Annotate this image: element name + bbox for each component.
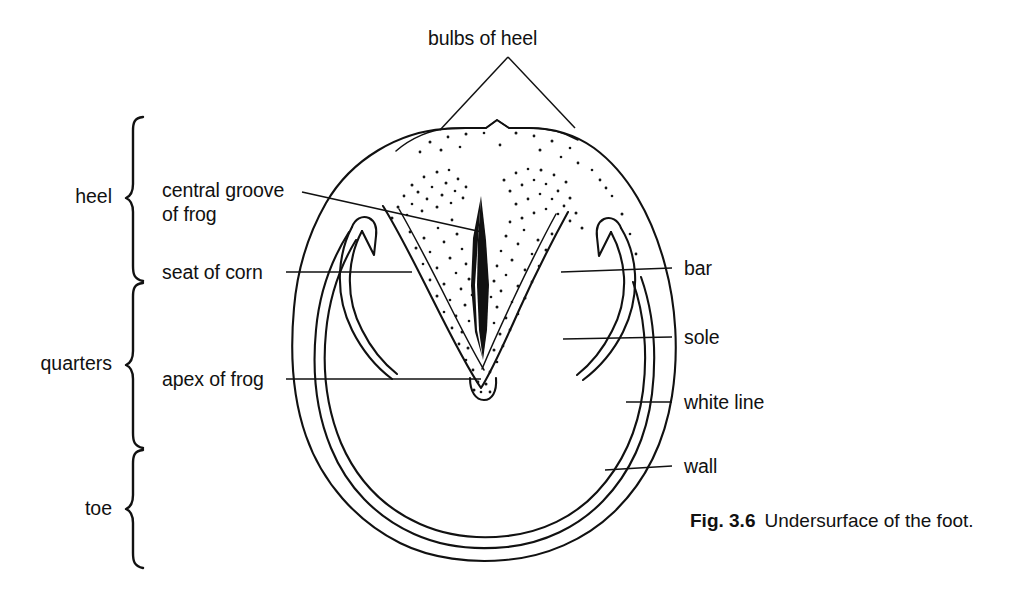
label-apex-of-frog: apex of frog [162,367,264,391]
leader-sole [563,337,672,339]
bracket-toe [126,450,143,568]
label-central-groove-of-frog-line2: of frog [162,202,217,226]
bulbs-of-heel-pointer [440,57,575,130]
heel-bulb-rim [396,120,578,151]
bracket-quarters [126,283,143,448]
bar-left [340,217,397,379]
label-sole: sole [684,325,719,349]
label-white-line: white line [684,390,764,414]
label-wall: wall [684,454,717,478]
leader-bar [561,268,672,272]
figure-caption-text: Undersurface of the foot. [764,510,973,531]
label-bulbs-of-heel: bulbs of heel [428,26,537,50]
region-brackets [126,117,143,568]
bracket-heel [126,117,143,281]
bracket-label-heel: heel [20,185,112,208]
label-central-groove-of-frog-line1: central groove [162,178,284,202]
bar-right [577,218,635,380]
label-bar: bar [684,256,712,280]
label-seat-of-corn: seat of corn [162,260,263,284]
figure-undersurface-of-foot: bulbs of heel heel quarters toe central … [0,0,1010,598]
bracket-label-toe: toe [20,497,112,520]
leader-central-groove-of-frog [302,192,482,232]
bracket-label-quarters: quarters [20,352,112,375]
central-groove-of-frog-cleft [471,196,489,360]
figure-caption: Fig. 3.6Undersurface of the foot. [690,508,990,533]
figure-number: Fig. 3.6 [690,510,755,531]
